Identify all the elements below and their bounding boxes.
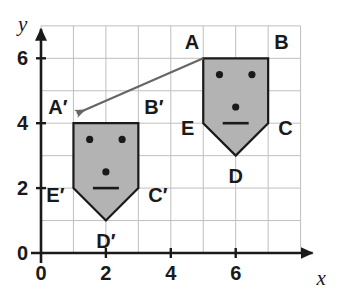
vertex-label: B xyxy=(274,31,288,53)
x-tick-label: 6 xyxy=(230,262,241,284)
y-tick-label: 0 xyxy=(17,242,28,264)
eye-dot xyxy=(248,71,255,78)
nose-dot xyxy=(232,103,239,110)
nose-dot xyxy=(102,168,109,175)
y-tick-label: 4 xyxy=(17,112,29,134)
y-axis-label: y xyxy=(16,12,28,36)
figure-svg: 02460246 ABCDEA′B′C′D′E′ x y xyxy=(0,0,341,295)
vertex-label: C′ xyxy=(148,184,167,206)
vertex-label: A′ xyxy=(48,96,67,118)
translation-arrow-group xyxy=(77,58,204,113)
y-tick-label: 2 xyxy=(17,177,28,199)
vertex-label: D xyxy=(228,165,242,187)
vertex-label: D′ xyxy=(96,230,115,252)
vertex-label: E′ xyxy=(46,184,64,206)
translation-arrow xyxy=(77,58,204,113)
x-axis-label: x xyxy=(316,266,327,290)
eye-dot xyxy=(86,136,93,143)
x-tick-label: 4 xyxy=(165,262,177,284)
y-tick-label: 6 xyxy=(17,47,28,69)
vertex-label: E xyxy=(181,117,194,139)
x-tick-label: 2 xyxy=(100,262,111,284)
eye-dot xyxy=(216,71,223,78)
eye-dot xyxy=(119,136,126,143)
vertex-label: C xyxy=(278,117,292,139)
x-tick-label: 0 xyxy=(35,262,46,284)
vertex-label: B′ xyxy=(144,96,163,118)
vertex-label: A xyxy=(185,31,199,53)
coordinate-plane-figure: 02460246 ABCDEA′B′C′D′E′ x y xyxy=(0,0,341,295)
